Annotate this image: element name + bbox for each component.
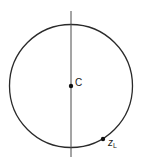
center-point xyxy=(69,84,73,88)
z-l-point xyxy=(101,137,105,141)
circle-diagram: C zL xyxy=(0,0,143,164)
z-l-label: zL xyxy=(107,137,117,149)
center-label: C xyxy=(75,77,82,88)
z-l-label-subscript: L xyxy=(113,142,117,149)
